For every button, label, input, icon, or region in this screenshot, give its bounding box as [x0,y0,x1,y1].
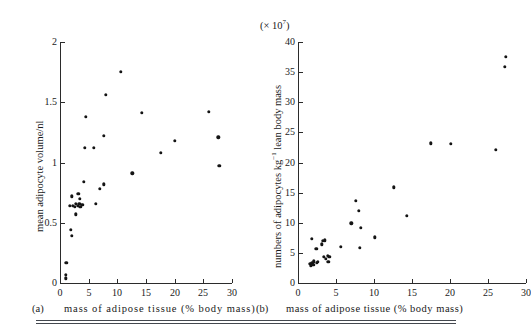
x-tick-label-a-0: 0 [58,288,63,298]
data-point [327,260,330,263]
footer-rule-upper [36,320,456,321]
data-point [70,194,73,197]
multiplier-suffix: ) [286,20,290,31]
x-tick-label-b-6: 30 [521,288,531,298]
x-tick-b-6 [526,279,527,283]
y-tick-b-5 [299,132,303,133]
y-tick-label-b-6: 30 [285,97,295,107]
y-tick-label-b-4: 20 [285,158,295,168]
y-tick-label-a-3: 1.5 [45,97,58,107]
x-tick-b-4 [450,279,451,283]
y-tick-a-3 [61,102,65,103]
data-point [70,234,73,237]
data-point [74,213,77,216]
y-tick-a-2 [61,163,65,164]
x-tick-label-b-4: 20 [445,288,455,298]
data-point [207,110,210,113]
x-tick-label-b-5: 25 [483,288,493,298]
x-tick-a-3 [146,279,147,283]
panel-b: 0510152025303540051015202530 (× 107) num… [244,0,488,329]
y-tick-label-b-8: 40 [285,37,295,47]
y-tick-b-3 [299,193,303,194]
footer-rule-lower [36,323,456,324]
y-axis-title-b-post: lean body mass [272,85,283,152]
data-point [310,237,313,240]
y-tick-label-b-1: 5 [290,248,295,258]
multiplier-prefix: (× 10 [260,20,283,31]
data-point [449,142,452,145]
y-tick-label-b-3: 15 [285,188,295,198]
x-tick-label-b-1: 5 [334,288,339,298]
panel-a: 00.511.52051015202530 mean adipocyte vol… [0,0,244,329]
x-tick-label-a-2: 10 [112,288,122,298]
y-tick-label-b-2: 10 [285,218,295,228]
x-tick-label-a-3: 15 [141,288,151,298]
x-axis-line-b [298,283,526,284]
x-tick-label-b-2: 10 [369,288,379,298]
y-tick-label-b-7: 35 [285,67,295,77]
panel-letter-b: (b) [256,303,268,314]
data-point [78,197,81,200]
y-tick-b-8 [299,42,303,43]
data-point [102,134,105,137]
y-axis-title-a: mean adipocyte volume/nl [34,121,45,232]
y-axis-title-b-superscript: −1 [270,152,278,159]
y-tick-b-7 [299,72,303,73]
data-point [98,187,101,190]
x-tick-a-5 [203,279,204,283]
y-axis-title-b-pre: numbers of adipocytes kg [272,160,283,268]
data-point [84,115,87,118]
data-point [102,182,105,185]
data-point [82,180,85,183]
data-point [494,148,497,151]
data-point [69,228,72,231]
y-axis-title-b: numbers of adipocytes kg−1 lean body mas… [270,85,283,268]
data-point [320,243,323,246]
y-axis-multiplier-b: (× 107) [260,18,290,31]
data-point [429,141,432,144]
x-tick-a-4 [175,279,176,283]
y-tick-label-a-0: 0 [52,278,57,288]
x-tick-label-a-4: 20 [170,288,180,298]
x-axis-line-a [60,283,232,284]
x-tick-b-3 [412,279,413,283]
data-point [405,214,408,217]
data-point [130,172,133,175]
y-tick-label-a-1: 0.5 [45,218,58,228]
data-point [358,246,361,249]
data-point [81,203,84,206]
x-tick-label-a-6: 30 [227,288,237,298]
x-axis-title-a: mass of adipose tissue (% body mass) [64,303,256,314]
x-tick-a-6 [232,279,233,283]
data-point [159,151,162,154]
data-point [218,164,221,167]
x-tick-label-a-1: 5 [87,288,92,298]
y-tick-label-a-4: 2 [52,37,57,47]
data-point [327,255,330,258]
x-tick-b-5 [488,279,489,283]
data-point [64,276,67,279]
data-point [354,199,357,202]
y-tick-label-a-2: 1 [52,158,57,168]
data-point [357,209,360,212]
data-point [316,260,319,263]
data-point [339,245,342,248]
y-tick-a-1 [61,223,65,224]
data-point [359,226,362,229]
data-point [140,111,143,114]
data-point [503,65,506,68]
data-point [311,263,314,266]
y-tick-label-b-0: 0 [290,278,295,288]
x-tick-label-b-3: 15 [407,288,417,298]
data-point [64,273,67,276]
x-tick-a-2 [117,279,118,283]
data-point [323,238,326,241]
x-tick-label-a-5: 25 [198,288,208,298]
data-point [373,235,376,238]
data-point [504,55,507,58]
x-tick-label-b-0: 0 [296,288,301,298]
data-point [92,146,95,149]
x-tick-a-1 [89,279,90,283]
data-point [94,202,97,205]
